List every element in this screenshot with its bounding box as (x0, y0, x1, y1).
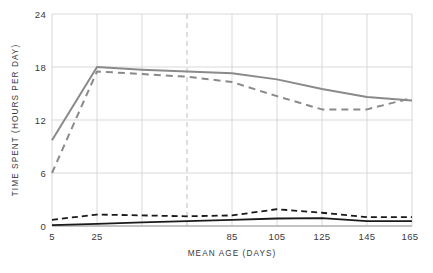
line-chart: 24 18 12 6 0 5 25 85 105 125 145 165 MEA… (0, 0, 433, 273)
x-axis-title: MEAN AGE (DAYS) (188, 249, 277, 258)
x-tick-5: 5 (49, 231, 55, 242)
x-tick-85: 85 (226, 231, 237, 242)
chart-container: 24 18 12 6 0 5 25 85 105 125 145 165 MEA… (0, 0, 433, 273)
y-axis-title: TIME SPENT (HOURS PER DAY) (11, 44, 20, 197)
y-tick-12: 12 (35, 115, 46, 126)
x-tick-125: 125 (314, 231, 331, 242)
y-tick-18: 18 (35, 62, 46, 73)
y-tick-24: 24 (35, 9, 46, 20)
x-tick-145: 145 (359, 231, 376, 242)
y-tick-0: 0 (40, 221, 46, 232)
y-tick-6: 6 (40, 168, 46, 179)
x-tick-105: 105 (269, 231, 286, 242)
x-tick-165: 165 (402, 231, 419, 242)
x-tick-25: 25 (91, 231, 102, 242)
y-axis-ticks: 24 18 12 6 0 (35, 9, 46, 232)
x-axis-ticks: 5 25 85 105 125 145 165 (49, 231, 418, 242)
